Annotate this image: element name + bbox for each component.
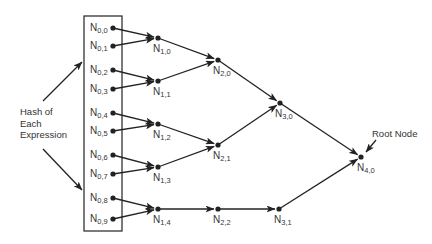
node-label-N2-0: N2,0 [213,65,231,79]
node-label-N0-5: N0,5 [90,125,108,139]
node-label-N0-3: N0,3 [90,83,108,97]
hash-annotation-line-3: Expression [20,129,67,141]
node-dot-N0-2 [110,67,115,72]
edge-N0-5-to-N1-2 [113,125,154,131]
root-arrow [366,140,376,152]
node-label-N1-2: N1,2 [153,129,171,143]
node-label-N1-0: N1,0 [153,43,171,57]
node-label-N2-2: N2,2 [213,214,231,228]
edge-N3-1-to-N4-0 [279,159,358,209]
node-dot-N1-2 [155,121,160,126]
edge-N1-3-to-N2-1 [158,146,214,167]
node-label-N1-4: N1,4 [153,214,171,228]
node-label-N0-1: N0,1 [90,40,108,54]
node-label-N3-1: N3,1 [274,214,292,228]
hash-tree-diagram: N0,0N0,1N0,2N0,3N0,4N0,5N0,6N0,7N0,8N0,9… [0,0,432,244]
edge-N0-4-to-N1-2 [113,113,154,123]
node-label-N3-0: N3,0 [275,108,293,122]
node-dot-N0-8 [110,195,115,200]
node-dot-N2-2 [215,206,220,211]
hash-arrow-down [43,149,82,190]
root-node-annotation: Root Node [372,128,417,140]
node-label-N0-4: N0,4 [90,107,108,121]
node-dot-N4-0 [358,154,363,159]
node-dot-N2-0 [215,57,220,62]
node-dot-N0-3 [110,86,115,91]
node-label-N0-2: N0,2 [90,64,108,78]
node-dot-N0-0 [110,25,115,30]
edge-N0-0-to-N1-0 [113,28,154,37]
node-dot-N0-9 [110,216,115,221]
hash-annotation-line-1: Hash of [20,106,67,118]
node-dot-N3-1 [276,206,281,211]
node-dot-N1-0 [155,35,160,40]
node-label-N1-3: N1,3 [153,172,171,186]
node-label-N0-9: N0,9 [90,213,108,227]
edge-N0-3-to-N1-1 [113,82,154,89]
edge-N0-6-to-N1-3 [113,155,154,166]
hash-arrow-up [43,62,82,101]
edge-N0-1-to-N1-0 [113,39,154,46]
node-dot-N0-4 [110,110,115,115]
node-dot-N0-6 [110,152,115,157]
node-dot-N1-1 [155,78,160,83]
edge-N2-1-to-N3-0 [218,105,277,145]
tree-edges [113,28,358,219]
node-dot-N2-1 [215,142,220,147]
node-label-N0-6: N0,6 [90,149,108,163]
node-dot-N0-5 [110,128,115,133]
hash-annotation: Hash of Each Expression [20,106,67,141]
hash-annotation-line-2: Each [20,118,67,130]
node-label-N0-7: N0,7 [90,168,108,182]
node-label-N0-0: N0,0 [90,22,108,36]
node-dot-N3-0 [277,100,282,105]
edge-N0-8-to-N1-4 [113,198,154,208]
node-label-N4-0: N4,0 [357,162,375,176]
node-label-N2-1: N2,1 [213,150,231,164]
node-dot-N0-7 [110,171,115,176]
edge-N1-1-to-N2-0 [158,61,214,81]
edge-N0-2-to-N1-1 [113,70,154,80]
edge-N0-7-to-N1-3 [113,168,154,174]
node-dot-N1-3 [155,164,160,169]
node-dot-N1-4 [155,206,160,211]
edge-N0-9-to-N1-4 [113,210,154,219]
node-dots [110,25,363,221]
node-label-N1-1: N1,1 [153,86,171,100]
node-label-N0-8: N0,8 [90,192,108,206]
node-dot-N0-1 [110,43,115,48]
